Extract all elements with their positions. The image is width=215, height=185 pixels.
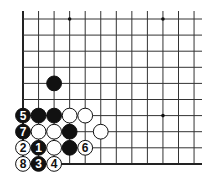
black-stone-icon <box>62 124 77 139</box>
black-stone <box>47 108 62 123</box>
white-stone-move-6: 6 <box>78 140 93 155</box>
white-stone <box>78 108 93 123</box>
move-number: 7 <box>20 125 27 139</box>
star-point-icon <box>68 17 72 21</box>
white-stone-move-4: 4 <box>47 157 62 172</box>
black-stone-move-5: 5 <box>16 108 31 123</box>
white-stone-move-8: 8 <box>16 157 31 172</box>
white-stone <box>62 108 77 123</box>
move-number: 4 <box>51 157 58 171</box>
move-number: 2 <box>20 141 27 155</box>
move-number: 3 <box>35 157 42 171</box>
black-stone-move-1: 1 <box>31 140 46 155</box>
black-stone-move-7: 7 <box>16 124 31 139</box>
stones: 57216834 <box>16 76 109 171</box>
white-stone-icon <box>62 108 77 123</box>
black-stone-icon <box>62 140 77 155</box>
white-stone <box>93 124 108 139</box>
black-stone <box>62 124 77 139</box>
move-number: 8 <box>20 157 27 171</box>
white-stone-move-2: 2 <box>16 140 31 155</box>
white-stone <box>47 140 62 155</box>
black-stone-icon <box>47 108 62 123</box>
black-stone <box>47 76 62 91</box>
move-number: 1 <box>35 141 42 155</box>
white-stone-icon <box>47 124 62 139</box>
go-board-diagram: 57216834 <box>0 0 215 185</box>
star-point-icon <box>161 17 165 21</box>
white-stone-icon <box>78 108 93 123</box>
black-stone-move-3: 3 <box>31 157 46 172</box>
white-stone-icon <box>47 140 62 155</box>
white-stone <box>31 124 46 139</box>
black-stone-icon <box>31 108 46 123</box>
black-stone <box>31 108 46 123</box>
black-stone-icon <box>47 76 62 91</box>
star-point-icon <box>161 114 165 118</box>
white-stone <box>47 124 62 139</box>
move-number: 5 <box>20 109 27 123</box>
move-number: 6 <box>82 141 89 155</box>
white-stone-icon <box>93 124 108 139</box>
white-stone-icon <box>31 124 46 139</box>
black-stone <box>62 140 77 155</box>
